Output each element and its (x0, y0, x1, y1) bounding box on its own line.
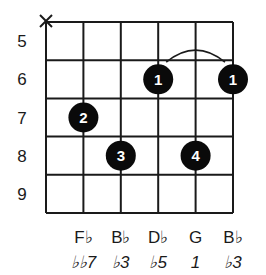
note-name: D♭ (148, 228, 168, 247)
note-name: B♭ (111, 228, 130, 247)
note-names: F♭B♭D♭GB♭ (74, 228, 242, 247)
finger-dot: 1 (143, 64, 173, 94)
interval-label: ♭3 (112, 253, 130, 272)
fret-number: 8 (17, 147, 26, 166)
note-name: B♭ (223, 228, 242, 247)
fret-number: 9 (17, 185, 26, 204)
finger-dot: 2 (68, 103, 98, 133)
finger-number: 2 (79, 109, 87, 126)
interval-label: 1 (191, 253, 200, 272)
interval-label: ♭♭7 (71, 253, 97, 272)
finger-number: 4 (191, 147, 200, 164)
fret-number: 7 (17, 109, 26, 128)
finger-dot: 3 (106, 141, 136, 171)
finger-dot: 1 (218, 64, 248, 94)
interval-labels: ♭♭7♭3♭51♭3 (71, 253, 243, 272)
chord-diagram: 56789 23141 F♭B♭D♭GB♭ ♭♭7♭3♭51♭3 (0, 0, 266, 275)
fret-numbers: 56789 (17, 32, 26, 204)
note-name: F♭ (74, 228, 92, 247)
note-name: G (189, 228, 202, 247)
finger-number: 1 (154, 71, 162, 88)
fret-number: 5 (17, 32, 26, 51)
finger-number: 3 (117, 147, 125, 164)
finger-dot: 4 (181, 141, 211, 171)
interval-label: ♭5 (149, 253, 167, 272)
finger-number: 1 (229, 71, 237, 88)
fret-number: 6 (17, 70, 26, 89)
interval-label: ♭3 (224, 253, 242, 272)
